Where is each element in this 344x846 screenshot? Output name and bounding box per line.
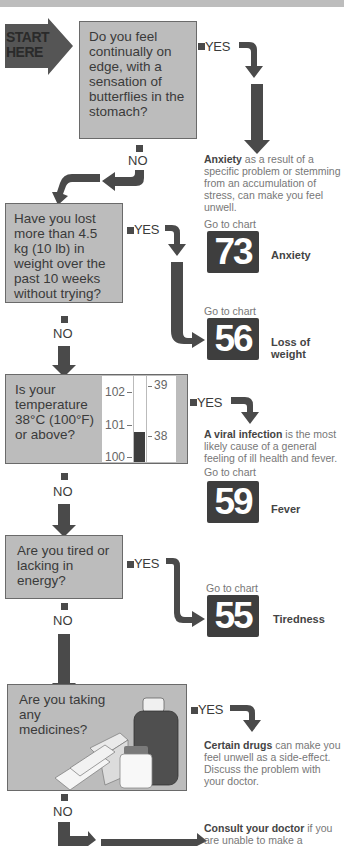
outcome-certain-drugs: Certain drugs can make you feel unwell a… (204, 739, 344, 787)
no-label: NO (53, 804, 73, 819)
yes-label: YES (198, 702, 223, 717)
outcome-title: Consult your doctor (204, 822, 304, 834)
medicines-illustration (0, 0, 344, 846)
outcome-consult-doctor: Consult your doctor if you are unable to… (204, 822, 344, 846)
outcome-title: Certain drugs (204, 739, 272, 751)
